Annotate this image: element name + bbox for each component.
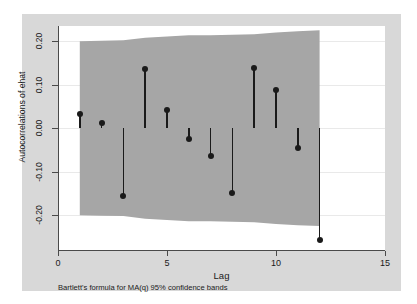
y-tick-mark-4 [52, 215, 58, 216]
data-point-lag-2 [99, 120, 105, 126]
acf-chart-screenshot: 0.200.100.00-0.10-0.20 051015 Autocorrel… [0, 0, 417, 304]
stem-lag-9 [253, 68, 255, 128]
data-point-lag-11 [295, 145, 301, 151]
y-axis-line [58, 26, 59, 250]
stem-lag-12 [319, 128, 321, 240]
y-tick-mark-1 [52, 85, 58, 86]
y-tick-label-3: -0.10 [28, 166, 50, 178]
y-tick-mark-0 [52, 41, 58, 42]
x-tick-label-0: 0 [43, 258, 73, 268]
y-tick-label-2: 0.00 [28, 122, 50, 134]
data-point-lag-8 [229, 190, 235, 196]
data-point-lag-5 [164, 107, 170, 113]
y-tick-mark-3 [52, 172, 58, 173]
data-point-lag-6 [186, 136, 192, 142]
stem-lag-7 [210, 128, 212, 156]
plot-area [58, 26, 385, 250]
stem-lag-10 [275, 90, 277, 128]
x-tick-label-3: 15 [370, 258, 400, 268]
x-tick-mark-0 [58, 251, 59, 256]
y-tick-label-4: -0.20 [28, 209, 50, 221]
data-point-lag-12 [317, 237, 323, 243]
data-point-lag-9 [251, 65, 257, 71]
confidence-band [58, 26, 385, 250]
x-tick-mark-2 [276, 251, 277, 256]
y-axis-title: Autocorrelations of ehat [17, 57, 27, 177]
x-axis-line [58, 250, 385, 251]
stem-lag-8 [232, 128, 234, 192]
stem-lag-3 [123, 128, 125, 195]
y-tick-mark-2 [52, 128, 58, 129]
x-tick-label-2: 10 [261, 258, 291, 268]
x-tick-mark-3 [385, 251, 386, 256]
x-tick-mark-1 [167, 251, 168, 256]
stem-lag-4 [144, 69, 146, 128]
data-point-lag-1 [77, 111, 83, 117]
y-tick-label-0: 0.20 [28, 35, 50, 47]
data-point-lag-7 [208, 153, 214, 159]
x-tick-label-1: 5 [152, 258, 182, 268]
y-tick-label-1: 0.10 [28, 79, 50, 91]
chart-note: Bartlett's formula for MA(q) 95% confide… [58, 283, 227, 292]
x-axis-title: Lag [58, 270, 385, 281]
